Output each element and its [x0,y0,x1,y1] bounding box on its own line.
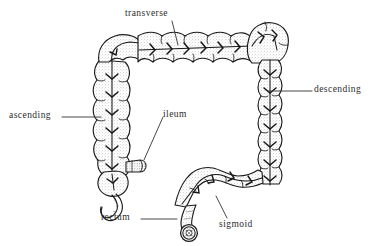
label-sigmoid: sigmoid [219,220,253,230]
ascending-colon [93,60,130,176]
colon-illustration [0,0,376,246]
transverse-colon [138,32,252,62]
diagram-canvas: transverse descending ascending ileum re… [0,0,376,246]
label-ascending: ascending [9,111,51,121]
leader-sigmoid [216,196,227,218]
splenic-flexure [247,22,288,63]
hepatic-flexure [99,35,140,62]
label-descending: descending [314,85,361,95]
cecum [98,171,128,196]
descending-colon [258,60,282,185]
label-transverse: transverse [125,9,168,19]
ileum-stub [126,160,146,172]
anal-opening [181,225,198,242]
label-ileum: ileum [163,110,187,120]
leader-ileum [144,117,163,160]
label-rectum: rectum [101,213,130,223]
